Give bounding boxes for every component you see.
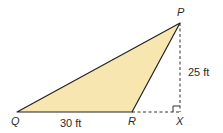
- vertex-label-r: R: [128, 115, 136, 127]
- triangle-pqr: [17, 23, 180, 112]
- triangle-diagram: P Q R X 30 ft 25 ft: [0, 0, 223, 133]
- measurement-qr: 30 ft: [60, 117, 81, 129]
- measurement-px: 25 ft: [188, 66, 209, 78]
- vertex-label-x: X: [175, 115, 184, 127]
- vertex-label-q: Q: [11, 115, 20, 127]
- right-angle-marker: [173, 106, 180, 112]
- vertex-label-p: P: [177, 6, 185, 18]
